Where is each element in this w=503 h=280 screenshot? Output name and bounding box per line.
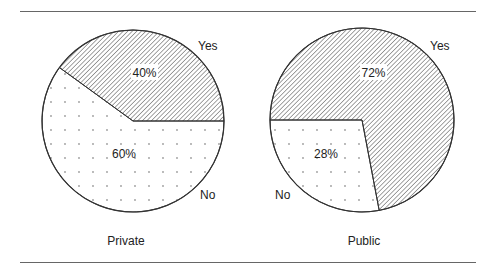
label-public-no-pct: 28% [314, 147, 338, 161]
label-public-no: No [275, 188, 291, 202]
label-public-yes: Yes [430, 39, 450, 53]
label-private-no-pct: 60% [112, 147, 136, 161]
pie-charts: 40% 60% Yes No 72% 28% Yes No [0, 0, 503, 280]
label-private-yes-pct: 40% [132, 66, 156, 80]
label-public-yes-pct: 72% [361, 66, 385, 80]
caption-private: Private [107, 234, 144, 248]
label-private-no: No [200, 188, 216, 202]
pie-public: 72% 28% Yes No [270, 28, 454, 212]
pie-private: 40% 60% Yes No [42, 30, 224, 212]
caption-public: Public [348, 234, 381, 248]
label-private-yes: Yes [198, 39, 218, 53]
